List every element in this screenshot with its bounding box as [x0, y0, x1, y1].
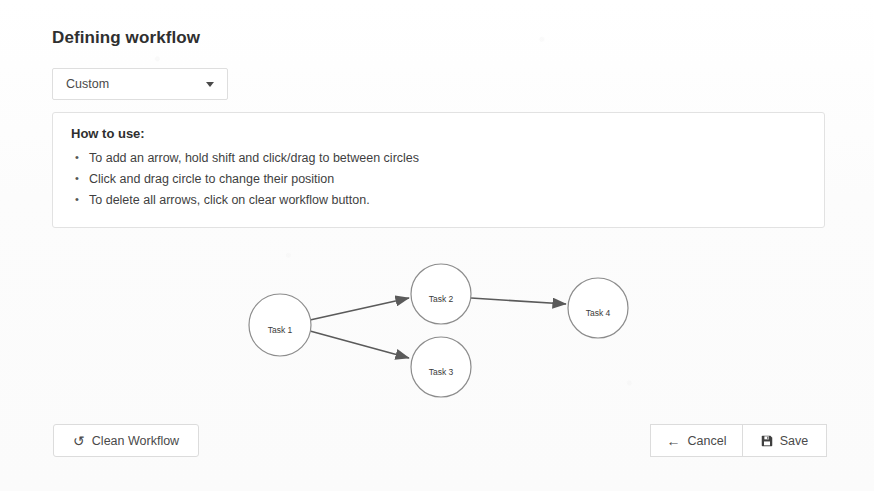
node-task3[interactable]: Task 3: [411, 337, 471, 397]
node-task1-label: Task 1: [268, 325, 293, 335]
workflow-graph[interactable]: Task 1 Task 2 Task 3 Task 4: [0, 240, 874, 410]
node-task3-label: Task 3: [429, 367, 454, 377]
node-task4-label: Task 4: [586, 308, 611, 318]
node-task2[interactable]: Task 2: [411, 264, 471, 324]
node-task4[interactable]: Task 4: [568, 278, 628, 338]
workflow-diagram-canvas[interactable]: Task 1 Task 2 Task 3 Task 4: [0, 240, 874, 410]
workflow-type-value: Custom: [66, 77, 206, 91]
clean-workflow-label: Clean Workflow: [92, 434, 179, 448]
clean-workflow-button[interactable]: ↺ Clean Workflow: [53, 424, 199, 457]
edge-task1-task3[interactable]: [310, 331, 409, 358]
help-instruction-item: Click and drag circle to change their po…: [71, 169, 806, 190]
cancel-button[interactable]: ← Cancel: [650, 424, 742, 457]
help-panel: How to use: To add an arrow, hold shift …: [52, 112, 825, 228]
defining-workflow-page: Defining workflow Custom How to use: To …: [0, 0, 874, 491]
floppy-disk-icon: [761, 435, 773, 447]
workflow-type-select[interactable]: Custom: [52, 68, 228, 100]
save-label: Save: [780, 434, 809, 448]
help-panel-title: How to use:: [71, 126, 806, 141]
node-task1[interactable]: Task 1: [249, 294, 311, 356]
edge-task1-task2[interactable]: [310, 298, 409, 320]
help-instruction-list: To add an arrow, hold shift and click/dr…: [71, 148, 806, 211]
edge-task2-task4[interactable]: [471, 298, 566, 304]
undo-icon: ↺: [73, 434, 85, 448]
cancel-label: Cancel: [688, 434, 727, 448]
chevron-down-icon: [206, 82, 214, 87]
help-instruction-item: To add an arrow, hold shift and click/dr…: [71, 148, 806, 169]
node-task2-label: Task 2: [429, 294, 454, 304]
page-title: Defining workflow: [52, 28, 200, 48]
save-button[interactable]: Save: [742, 424, 827, 457]
help-instruction-item: To delete all arrows, click on clear wor…: [71, 190, 806, 211]
form-action-group: ← Cancel Save: [650, 424, 827, 457]
arrow-left-icon: ←: [667, 434, 681, 448]
